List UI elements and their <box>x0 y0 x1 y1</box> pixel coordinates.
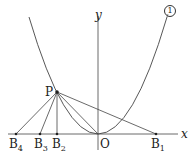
x-axis-label: x <box>181 128 188 140</box>
diagram-graphics <box>0 0 191 158</box>
point-b1-label: B1 <box>151 138 165 153</box>
segment-p-b1 <box>57 92 156 134</box>
point-p-label: P <box>45 86 53 98</box>
point-b3 <box>39 133 42 136</box>
point-b4 <box>15 133 18 136</box>
point-b2-label: B2 <box>52 138 66 153</box>
origin-label: O <box>100 138 110 150</box>
point-p <box>55 90 59 94</box>
diagram: y x O P 1 B4 B3 B2 B1 <box>0 0 191 158</box>
segments-from-p <box>16 92 156 134</box>
y-axis-label: y <box>95 9 102 21</box>
point-b1 <box>155 133 158 136</box>
points <box>15 90 158 135</box>
segment-p-o <box>57 92 98 134</box>
point-b2 <box>56 133 59 136</box>
point-b3-label: B3 <box>34 138 48 153</box>
point-b4-label: B4 <box>9 138 23 153</box>
curve-label: 1 <box>164 5 176 17</box>
